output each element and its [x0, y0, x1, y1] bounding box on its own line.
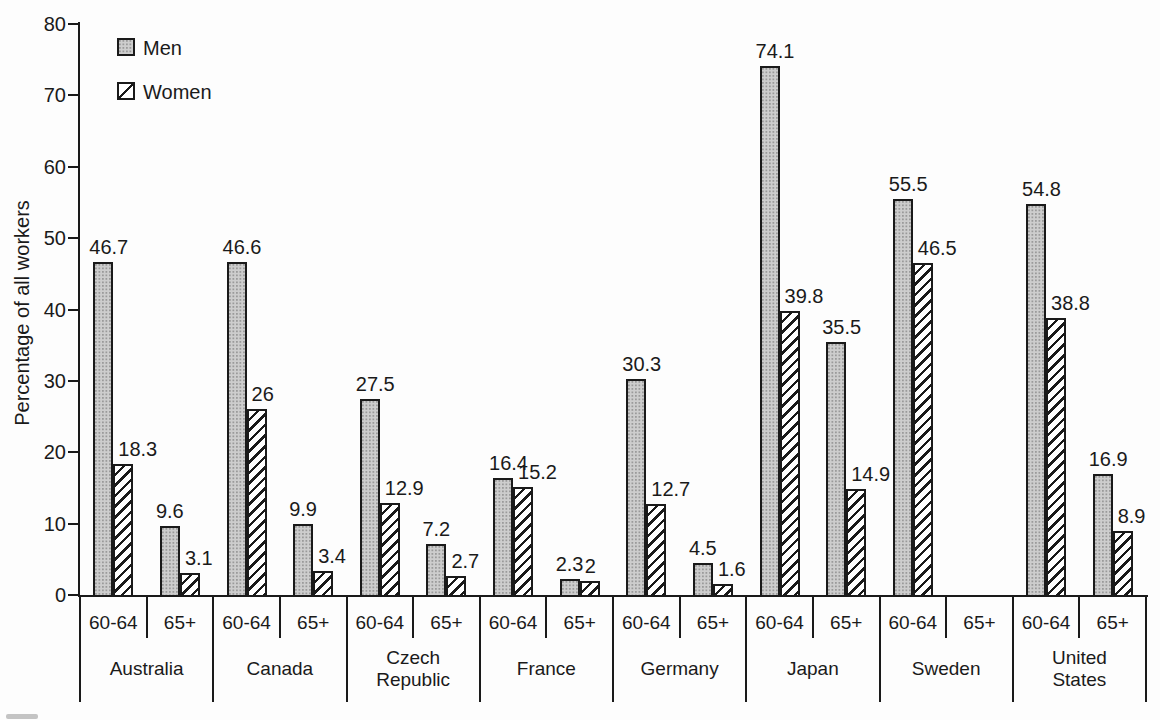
men-value-label: 55.5 [889, 173, 928, 195]
men-value-label: 27.5 [356, 373, 395, 395]
women-bar [313, 571, 333, 595]
y-tick-label: 10 [18, 511, 66, 537]
men-bar [893, 199, 913, 595]
age-group-label: 65+ [680, 611, 747, 635]
women-value-label: 3.1 [185, 547, 213, 569]
y-tick-mark [68, 237, 78, 239]
women-bar [513, 487, 533, 595]
y-tick-mark [68, 523, 78, 525]
age-group-label: 60-64 [613, 611, 680, 635]
men-value-label: 7.2 [422, 518, 450, 540]
women-legend-label: Women [143, 82, 212, 102]
y-tick-mark [68, 166, 78, 168]
age-group-label: 60-64 [746, 611, 813, 635]
age-group-label: 60-64 [347, 611, 414, 635]
men-value-label: 54.8 [1022, 178, 1061, 200]
y-tick-label: 0 [18, 582, 66, 608]
men-value-label: 16.9 [1089, 448, 1128, 470]
men-value-label: 35.5 [822, 316, 861, 338]
women-bar [446, 576, 466, 595]
men-bar [760, 66, 780, 595]
women-value-label: 2.7 [451, 550, 479, 572]
men-bar [1026, 204, 1046, 595]
women-bar [846, 489, 866, 595]
country-label: Sweden [880, 643, 1013, 695]
men-value-label: 9.9 [289, 498, 317, 520]
women-value-label: 39.8 [785, 285, 824, 307]
women-bar [713, 584, 733, 595]
women-bar [1046, 318, 1066, 595]
women-legend-swatch [117, 82, 135, 100]
women-value-label: 8.9 [1118, 505, 1146, 527]
y-tick-label: 40 [18, 297, 66, 323]
y-tick-label: 70 [18, 82, 66, 108]
women-bar [380, 503, 400, 595]
men-value-label: 46.7 [89, 236, 128, 258]
age-group-label: 60-64 [213, 611, 280, 635]
bar-chart-figure: Percentage of all workers 01020304050607… [0, 0, 1160, 720]
age-group-label: 65+ [946, 611, 1013, 635]
women-bar [180, 573, 200, 595]
women-value-label: 15.2 [518, 461, 557, 483]
age-group-label: 65+ [280, 611, 347, 635]
women-value-label: 26 [252, 383, 274, 405]
y-tick-mark [68, 94, 78, 96]
women-value-label: 1.6 [718, 558, 746, 580]
men-value-label: 74.1 [756, 40, 795, 62]
age-group-label: 60-64 [1013, 611, 1080, 635]
scan-artifact [6, 714, 38, 719]
women-bar [913, 263, 933, 595]
men-bar [626, 379, 646, 595]
men-value-label: 9.6 [156, 500, 184, 522]
y-tick-label: 60 [18, 154, 66, 180]
country-label: United States [1013, 643, 1146, 695]
men-bar [93, 262, 113, 595]
y-tick-mark [68, 380, 78, 382]
age-group-label: 65+ [413, 611, 480, 635]
men-bar [426, 544, 446, 595]
women-bar [580, 581, 600, 595]
country-label: Japan [746, 643, 879, 695]
men-bar [826, 342, 846, 595]
women-value-label: 14.9 [851, 463, 890, 485]
men-bar [560, 579, 580, 595]
age-group-label: 65+ [546, 611, 613, 635]
y-tick-mark [68, 594, 78, 596]
age-group-label: 60-64 [80, 611, 147, 635]
women-bar [1113, 531, 1133, 595]
women-value-label: 12.9 [385, 477, 424, 499]
men-value-label: 30.3 [622, 353, 661, 375]
men-bar [493, 478, 513, 595]
y-tick-mark [68, 309, 78, 311]
men-legend-label: Men [143, 38, 182, 58]
age-group-label: 60-64 [880, 611, 947, 635]
men-value-label: 2.3 [556, 553, 584, 575]
y-tick-label: 20 [18, 439, 66, 465]
women-value-label: 12.7 [651, 478, 690, 500]
men-value-label: 4.5 [689, 537, 717, 559]
y-axis-line [78, 22, 80, 597]
y-tick-label: 50 [18, 225, 66, 251]
y-tick-label: 30 [18, 368, 66, 394]
men-value-label: 46.6 [223, 236, 262, 258]
age-group-label: 65+ [813, 611, 880, 635]
y-tick-mark [68, 23, 78, 25]
women-bar [113, 464, 133, 595]
women-bar [646, 504, 666, 595]
men-bar [227, 262, 247, 595]
men-bar [160, 526, 180, 595]
men-bar [693, 563, 713, 595]
y-tick-mark [68, 451, 78, 453]
age-group-label: 60-64 [480, 611, 547, 635]
women-value-label: 38.8 [1051, 292, 1090, 314]
men-bar [293, 524, 313, 595]
men-legend-swatch [117, 38, 135, 56]
women-value-label: 3.4 [318, 545, 346, 567]
age-group-label: 65+ [147, 611, 214, 635]
country-label: Germany [613, 643, 746, 695]
country-label: Czech Republic [347, 643, 480, 695]
country-label: Australia [80, 643, 213, 695]
age-group-label: 65+ [1079, 611, 1146, 635]
men-bar [360, 399, 380, 595]
women-bar [247, 409, 267, 595]
